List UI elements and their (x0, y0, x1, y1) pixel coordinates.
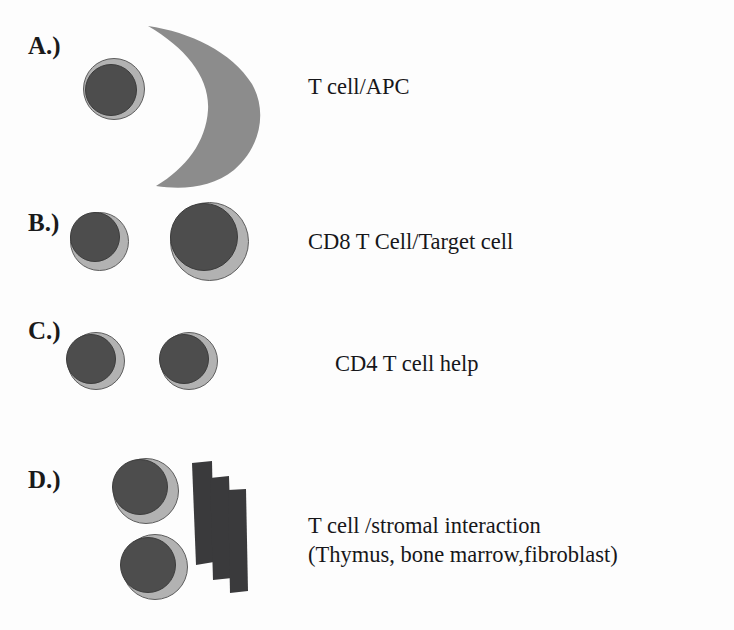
stromal-slab-3 (228, 489, 248, 593)
stromal-cell-structure (186, 458, 268, 598)
nucleus-a1 (85, 64, 137, 116)
nucleus-b1 (70, 212, 120, 262)
t-cell-c2 (160, 332, 218, 390)
t-cell-c1 (67, 332, 125, 390)
caption-panel-b-line-1: CD8 T Cell/Target cell (308, 227, 513, 256)
caption-panel-b: CD8 T Cell/Target cell (308, 227, 513, 256)
panel-letter-b: B.) (28, 209, 59, 237)
t-cell-b1 (70, 212, 129, 271)
caption-panel-d-line-2: (Thymus, bone marrow,fibroblast) (308, 540, 618, 569)
nucleus-c2 (159, 334, 209, 384)
caption-panel-a: T cell/APC (308, 72, 409, 101)
apc-crescent-shape (128, 22, 268, 190)
caption-panel-c-line-1: CD4 T cell help (335, 349, 479, 378)
t-cell-d1 (113, 458, 179, 524)
nucleus-c1 (66, 334, 116, 384)
nucleus-d1 (112, 459, 168, 515)
caption-panel-d: T cell /stromal interaction (Thymus, bon… (308, 511, 618, 569)
caption-panel-a-line-1: T cell/APC (308, 72, 409, 101)
nucleus-b2 (170, 203, 238, 271)
panel-letter-a: A.) (28, 32, 61, 60)
t-cell-d2 (122, 534, 188, 600)
nucleus-d2 (120, 537, 176, 593)
t-cell-a1 (83, 58, 145, 120)
panel-letter-d: D.) (28, 466, 61, 494)
caption-panel-d-line-1: T cell /stromal interaction (308, 511, 618, 540)
caption-panel-c: CD4 T cell help (335, 349, 479, 378)
target-cell-b2 (170, 202, 249, 281)
figure-canvas: A.) T cell/APC B.) CD8 T Cell/Target cel… (0, 0, 734, 630)
panel-letter-c: C.) (28, 317, 61, 345)
stromal-slab-1 (192, 461, 214, 565)
